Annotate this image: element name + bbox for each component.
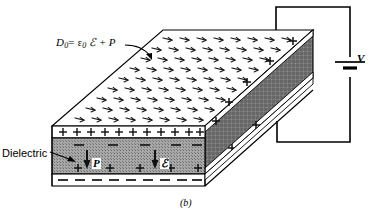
formula-p: P xyxy=(109,36,116,48)
efield-vector-label: ℰ xyxy=(160,158,169,169)
dielectric-label: Dielectric xyxy=(2,147,47,159)
voltage-label: V xyxy=(357,52,364,64)
formula-epsilon-sub: 0 xyxy=(82,41,86,50)
formula-equals: = xyxy=(68,36,74,48)
formula-script-e: ℰ xyxy=(89,36,96,48)
figure-caption: (b) xyxy=(180,197,192,208)
formula-plus: + xyxy=(99,36,105,48)
dielectric-capacitor-figure xyxy=(0,0,377,216)
formula-d: D xyxy=(56,36,64,48)
polarization-vector-label: P xyxy=(92,158,101,169)
formula-label: D0= ε0 ℰ + P xyxy=(56,36,116,50)
